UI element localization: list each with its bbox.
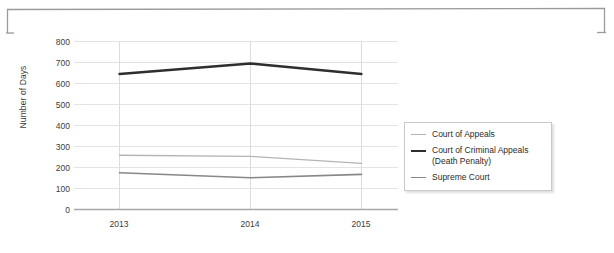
series-line-supreme-court bbox=[120, 173, 362, 178]
legend-swatch-line-icon bbox=[411, 177, 426, 178]
legend-label: Court of Criminal Appeals (Death Penalty… bbox=[432, 145, 528, 168]
chart-legend: Court of Appeals Court of Criminal Appea… bbox=[404, 122, 552, 191]
legend-swatch-line-icon bbox=[411, 150, 426, 152]
legend-swatch-line-icon bbox=[411, 134, 426, 135]
legend-label: Court of Appeals bbox=[432, 129, 495, 141]
series-line-court-of-criminal-appeals bbox=[120, 64, 362, 75]
legend-label: Supreme Court bbox=[432, 172, 490, 184]
series-line-court-of-appeals bbox=[120, 155, 362, 163]
legend-item-supreme-court: Supreme Court bbox=[411, 172, 544, 184]
legend-item-court-of-criminal-appeals: Court of Criminal Appeals (Death Penalty… bbox=[411, 145, 544, 168]
line-chart: Number of Days 800 700 600 500 400 300 2… bbox=[0, 30, 614, 250]
legend-item-court-of-appeals: Court of Appeals bbox=[411, 129, 544, 141]
